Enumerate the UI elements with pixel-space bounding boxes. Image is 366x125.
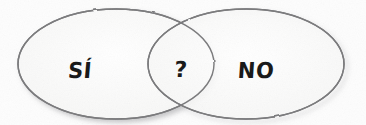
venn-label-no: NO — [237, 60, 275, 82]
venn-diagram-canvas: SÍ ? NO — [0, 0, 366, 125]
venn-label-yes: SÍ — [67, 60, 93, 82]
venn-label-intersection: ? — [174, 59, 188, 81]
